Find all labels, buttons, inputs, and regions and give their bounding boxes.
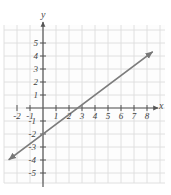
y-tick-label-4: 4 [26, 52, 38, 61]
y-tick-label--5: -5 [24, 169, 36, 178]
x-tick-label-8: 8 [141, 112, 153, 121]
y-tick-label-2: 2 [26, 78, 38, 87]
x-tick-label-4: 4 [89, 112, 101, 121]
y-tick-label-3: 3 [26, 65, 38, 74]
x-tick-label-2: 2 [63, 112, 75, 121]
y-tick-label--1: -1 [24, 117, 36, 126]
x-tick-label-5: 5 [102, 112, 114, 121]
y-tick-label-5: 5 [26, 39, 38, 48]
graph-figure: -2 -1 1 2 3 4 5 6 7 8 5 4 3 2 1 -1 -2 -3… [0, 0, 171, 195]
x-tick-label-3: 3 [76, 112, 88, 121]
x-tick-label-7: 7 [128, 112, 140, 121]
y-tick-label--4: -4 [24, 156, 36, 165]
x-tick-label-6: 6 [115, 112, 127, 121]
y-tick-label-1: 1 [26, 91, 38, 100]
y-tick-label--3: -3 [24, 143, 36, 152]
y-tick-label--2: -2 [24, 130, 36, 139]
x-tick-label-1: 1 [50, 112, 62, 121]
x-axis-title: x [159, 101, 163, 111]
x-tick-label--2: -2 [11, 112, 23, 121]
y-axis-title: y [41, 10, 45, 20]
